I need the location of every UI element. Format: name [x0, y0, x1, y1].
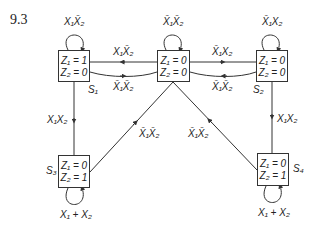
- state-s4: Z₁ = 0 Z₂ = 1: [257, 153, 289, 186]
- loop-s2-label: X̄₁X₂: [262, 16, 282, 27]
- state-s2-z2: Z₂ = 0: [257, 67, 287, 79]
- state-s3-z2: Z₂ = 1: [59, 172, 89, 184]
- edge-s3-s0-label: X̄₁X̄₂: [139, 128, 159, 139]
- state-s4-z1: Z₁ = 0: [258, 158, 288, 170]
- loop-initial-label: X̄₁X̄₂: [163, 16, 183, 27]
- edge-s1-s0-label: X̄₁X̄₂: [113, 81, 133, 92]
- edge-s2-s0-label: X̄₁X̄₂: [212, 81, 232, 92]
- state-s3-name: S₃: [46, 165, 57, 176]
- state-s4-z2: Z₂ = 1: [258, 170, 288, 182]
- state-s3-z1: Z₁ = 0: [59, 160, 89, 172]
- state-initial: Z₁ = 0 Z₂ = 0: [157, 50, 190, 82]
- state-s3: Z₁ = 0 Z₂ = 1: [58, 155, 90, 188]
- state-s1-name: S₁: [88, 84, 98, 95]
- state-s4-name: S₄: [293, 163, 304, 174]
- loop-s1-label: X₁X̄₂: [64, 16, 84, 27]
- edge-s4-s0-label: X̄₁X̄₂: [188, 128, 208, 139]
- state-s2: Z₁ = 0 Z₂ = 0: [256, 50, 288, 82]
- state-initial-z1: Z₁ = 0: [158, 55, 189, 67]
- state-s1-z2: Z₂ = 0: [59, 67, 89, 79]
- state-s1-z1: Z₁ = 1: [59, 55, 89, 67]
- state-initial-z2: Z₂ = 0: [158, 67, 189, 79]
- edge-s0-s2-label: X̄₁X₂: [212, 46, 232, 57]
- edge-s2-s4-label: X₁X₂: [277, 113, 297, 124]
- state-s2-name: S₂: [253, 84, 263, 95]
- state-s2-z1: Z₁ = 0: [257, 55, 287, 67]
- loop-s3-label: X₁ + X₂: [60, 209, 92, 220]
- state-s1: Z₁ = 1 Z₂ = 0: [58, 50, 90, 82]
- loop-s4-label: X₁ + X₂: [258, 207, 290, 218]
- edge-s1-s3-label: X₁X₂: [47, 114, 67, 125]
- edge-s0-s1-label: X₁X̄₂: [113, 46, 133, 57]
